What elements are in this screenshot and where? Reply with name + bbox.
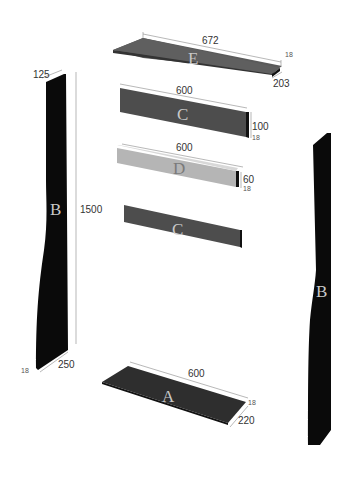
panel-a-length-label: 600 bbox=[188, 368, 205, 379]
panel-b-left-letter: B bbox=[50, 200, 61, 219]
panel-e: 672 18 203 E bbox=[113, 32, 293, 89]
panel-b-left-bottom-width-label: 250 bbox=[58, 359, 75, 370]
panel-d-length-label: 600 bbox=[176, 142, 193, 153]
panel-b-right: B bbox=[308, 133, 331, 445]
panel-c-lower-letter: C bbox=[172, 220, 183, 239]
panel-e-depth-label: 203 bbox=[273, 78, 290, 89]
panel-a-depth-label: 220 bbox=[238, 415, 255, 426]
exploded-assembly-diagram: 672 18 203 E 600 100 18 C 600 60 18 D C bbox=[0, 0, 350, 480]
panel-b-left: 125 1500 250 18 B bbox=[21, 69, 103, 374]
panel-c-upper-length-label: 600 bbox=[176, 85, 193, 96]
panel-b-left-top-width-label: 125 bbox=[33, 69, 50, 80]
panel-e-length-label: 672 bbox=[202, 35, 219, 46]
panel-a: 600 18 220 A bbox=[102, 362, 256, 427]
panel-c-lower: C bbox=[124, 205, 242, 248]
panel-c-upper: 600 100 18 C bbox=[120, 84, 269, 141]
panel-d-letter: D bbox=[173, 159, 185, 178]
panel-d-height-label: 60 bbox=[243, 174, 255, 185]
panel-c-upper-letter: C bbox=[177, 105, 188, 124]
panel-c-upper-thickness-label: 18 bbox=[252, 134, 260, 141]
panel-e-thickness-label: 18 bbox=[285, 51, 293, 58]
panel-e-letter: E bbox=[188, 49, 198, 68]
panel-a-letter: A bbox=[162, 387, 175, 406]
panel-b-left-height-label: 1500 bbox=[80, 204, 103, 215]
panel-d: 600 60 18 D bbox=[117, 142, 255, 192]
panel-a-thickness-label: 18 bbox=[248, 399, 256, 406]
panel-d-thickness-label: 18 bbox=[243, 185, 251, 192]
panel-b-right-letter: B bbox=[316, 282, 327, 301]
panel-c-upper-height-label: 100 bbox=[252, 121, 269, 132]
panel-b-left-thickness-label: 18 bbox=[21, 367, 29, 374]
